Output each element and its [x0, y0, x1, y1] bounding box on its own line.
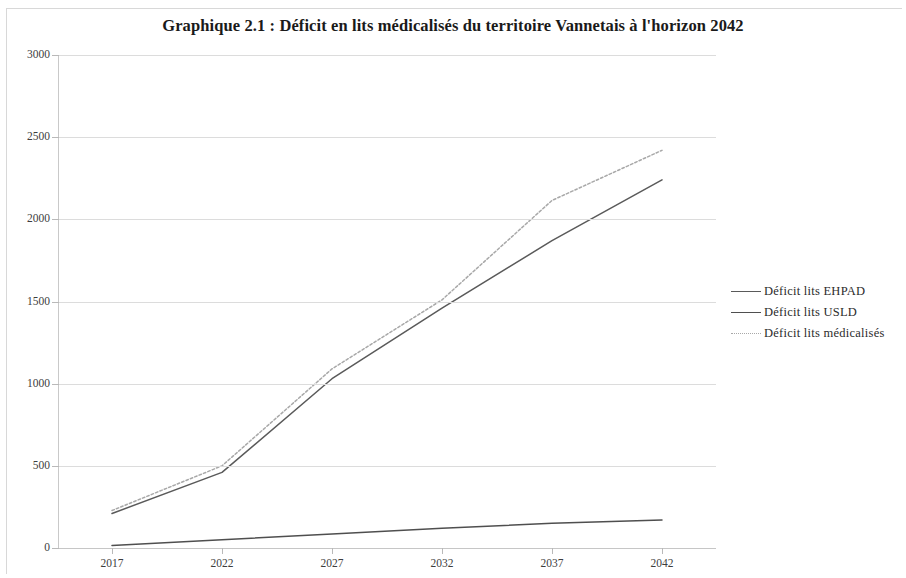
gridline [58, 219, 716, 220]
x-axis-tick [662, 548, 663, 554]
gridline [58, 302, 716, 303]
x-axis-tick-label: 2042 [627, 557, 697, 569]
legend-line-usld-icon [731, 308, 761, 317]
legend-line-medicalises-icon [731, 329, 761, 338]
series-line [112, 520, 662, 545]
y-axis-tick [52, 384, 59, 385]
legend-item[interactable]: Déficit lits médicalisés [731, 323, 903, 344]
chart-legend: Déficit lits EHPADDéficit lits USLDDéfic… [731, 281, 903, 344]
x-axis-tick-label: 2017 [77, 557, 147, 569]
x-axis-tick-label: 2022 [187, 557, 257, 569]
y-axis-tick-labels: 050010001500200025003000 [0, 0, 50, 578]
x-axis-tick [442, 548, 443, 554]
gridline [58, 137, 716, 138]
y-axis-tick-label: 2500 [4, 130, 50, 142]
y-axis-tick [52, 302, 59, 303]
legend-line-ehpad-icon [731, 287, 761, 296]
x-axis-tick-label: 2037 [517, 557, 587, 569]
gridline [58, 384, 716, 385]
x-axis-tick [332, 548, 333, 554]
y-axis-tick-label: 500 [4, 459, 50, 471]
x-axis-tick-label: 2027 [297, 557, 367, 569]
x-axis-tick [112, 548, 113, 554]
y-axis-tick-label: 2000 [4, 212, 50, 224]
gridline [58, 55, 716, 56]
legend-item[interactable]: Déficit lits EHPAD [731, 281, 903, 302]
y-axis-tick-label: 3000 [4, 48, 50, 60]
y-axis-tick [52, 55, 59, 56]
chart-figure: Graphique 2.1 : Déficit en lits médicali… [0, 0, 906, 578]
y-axis-tick [52, 137, 59, 138]
legend-item-label: Déficit lits EHPAD [764, 284, 865, 299]
x-axis-tick [552, 548, 553, 554]
plot-area [58, 55, 716, 548]
y-axis-tick-label: 1000 [4, 377, 50, 389]
series-line [112, 150, 662, 510]
legend-item-label: Déficit lits USLD [764, 305, 857, 320]
x-axis-tick [222, 548, 223, 554]
chart-title: Graphique 2.1 : Déficit en lits médicali… [0, 16, 906, 36]
series-line [112, 180, 662, 514]
y-axis-tick [52, 219, 59, 220]
x-axis-tick-label: 2032 [407, 557, 477, 569]
y-axis-tick-label: 0 [4, 541, 50, 553]
y-axis-tick-label: 1500 [4, 295, 50, 307]
gridline [58, 548, 716, 549]
y-axis-tick [52, 466, 59, 467]
gridline [58, 466, 716, 467]
legend-item-label: Déficit lits médicalisés [764, 326, 885, 341]
legend-item[interactable]: Déficit lits USLD [731, 302, 903, 323]
y-axis-tick [52, 548, 59, 549]
